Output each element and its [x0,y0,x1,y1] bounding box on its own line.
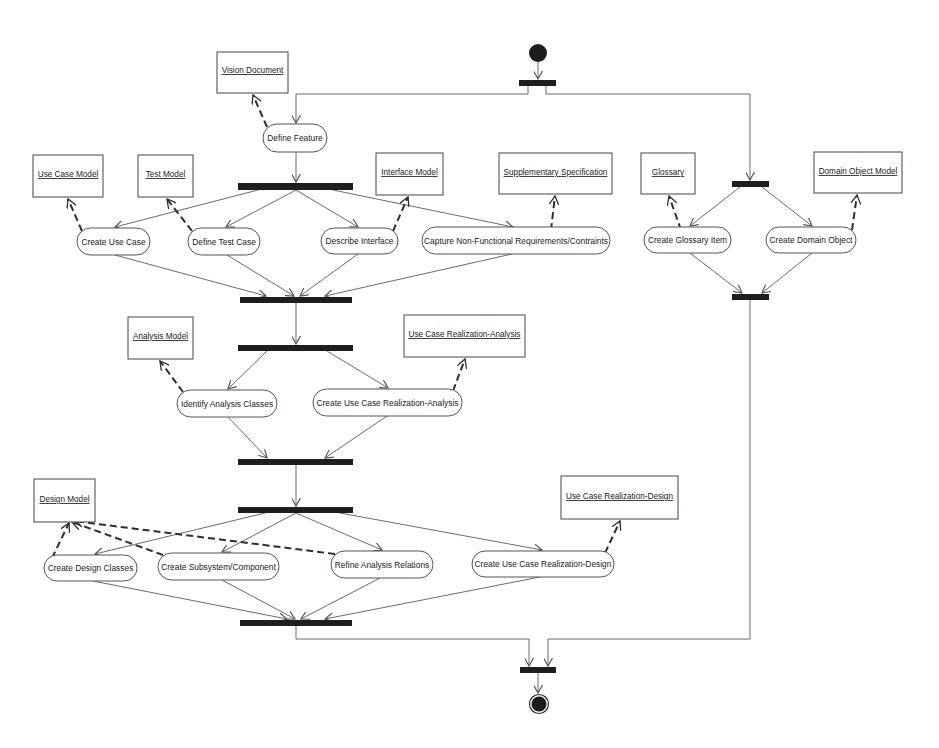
artifact-label: Glossary [652,168,685,177]
activity-create-ucr-design: Create Use Case Realization-Design [472,551,614,577]
dep-ucr-design-activity-to-artifact [605,521,620,553]
flow-fork2-to-identify-analysis [228,351,267,389]
flow-refine-relations-to-join3 [301,578,380,619]
artifact-label: Interface Model [381,168,438,177]
artifact-label: Domain Object Model [819,167,898,176]
activity-identify-analysis-classes: Identify Analysis Classes [177,390,277,417]
flow-identify-analysis-to-join2 [228,417,267,458]
activity-define-feature: Define Feature [263,124,327,152]
flow-fork1-to-capture-nfr [333,190,513,227]
activity-create-domain-object: Create Domain Object [766,227,856,253]
dep-identify-analysis-analysis-model [160,361,183,392]
dep-create-use-case-use-case-model [68,199,82,231]
flow-ucr-analysis-to-join2 [325,416,387,458]
activity-label: Create Design Classes [48,563,134,573]
flow-create-use-case-to-join1 [115,255,266,296]
flow-join3-to-final-join [296,626,529,666]
artifact-label: Vision Document [222,66,284,75]
fork-bar-right [732,181,769,187]
flow-describe-interface-to-join1 [300,254,358,296]
activity-label: Define Test Case [192,237,256,247]
flow-capture-nfr-to-join1 [325,254,512,296]
artifact-use-case-model: Use Case Model [33,155,103,197]
artifact-use-case-realization-analysis: Use Case Realization-Analysis [404,315,525,357]
activity-label: Create Subsystem/Component [161,562,276,572]
flow-fork2-to-ucr-analysis [327,351,388,388]
flow-glossary-item-to-right-join [690,253,742,293]
artifact-label: Test Model [146,170,186,179]
artifact-glossary: Glossary [641,153,695,194]
activity-refine-analysis-relations: Refine Analysis Relations [331,551,433,578]
activity-label: Create Use Case Realization-Design [475,559,612,569]
dep-domain-object-domain-object-model [852,195,857,230]
activity-label: Create Glossary Item [648,235,727,245]
flow-right-fork-to-glossary-item [690,187,740,226]
activity-label: Define Feature [267,133,323,143]
artifact-domain-object-model: Domain Object Model [814,152,902,193]
dep-capture-nfr-supplementary-spec [551,196,555,230]
activity-label: Create Use Case Realization-Analysis [317,398,459,408]
activity-create-use-case: Create Use Case [77,228,150,255]
join-bar-1 [240,297,352,303]
dep-design-classes-design-model [52,523,69,558]
dep-define-feature-vision-document [253,95,267,127]
activity-label: Describe Interface [326,236,394,246]
flow-fork-to-define-feature [296,86,528,123]
fork-bar-3 [238,507,353,513]
activity-create-ucr-analysis: Create Use Case Realization-Analysis [313,389,462,416]
dep-ucr-analysis-activity-to-artifact [453,359,465,391]
dep-refine-relations-design-model [74,521,335,554]
artifact-interface-model: Interface Model [376,153,443,195]
artifact-label: Analysis Model [133,332,188,341]
fork-bar-start [519,80,556,86]
flow-fork1-to-describe-interface [296,190,358,227]
artifact-design-model: Design Model [34,479,95,522]
activity-label: Create Use Case [81,237,146,247]
artifact-label: Supplementary Specification [504,168,608,177]
join-bar-right [732,294,769,300]
join-bar-3 [240,620,352,626]
join-bar-final [520,667,556,673]
activity-create-design-classes: Create Design Classes [44,555,137,581]
fork-bar-2 [238,345,353,351]
dep-describe-interface-interface-model [393,197,408,231]
flow-define-test-case-to-join1 [227,255,294,296]
dep-define-test-case-test-model [167,199,192,231]
activity-capture-nfr: Capture Non-Functional Requirements/Cont… [422,227,610,254]
flow-domain-object-to-right-join [762,253,812,293]
artifact-label: Design Model [39,495,89,504]
artifact-use-case-realization-design: Use Case Realization-Design [561,476,678,519]
activity-define-test-case: Define Test Case [188,228,260,255]
activity-label: Create Domain Object [770,235,854,245]
artifact-label: Use Case Realization-Design [566,492,673,501]
activity-create-subsystem-component: Create Subsystem/Component [158,553,279,580]
activity-label: Refine Analysis Relations [335,560,430,570]
flow-fork3-to-subsystem [222,513,296,552]
dep-subsystem-design-model [72,522,163,555]
fork-bar-1 [238,183,353,190]
flow-right-fork-to-domain-object [762,187,812,226]
activity-label: Identify Analysis Classes [181,399,273,409]
artifact-label: Use Case Realization-Analysis [409,330,521,339]
flow-ucr-design-to-join3 [325,577,540,619]
initial-node-icon [529,44,547,62]
artifact-analysis-model: Analysis Model [128,317,193,359]
artifact-vision-document: Vision Document [217,52,288,93]
activity-diagram: Vision Document Use Case Model Test Mode… [0,0,939,748]
final-node-icon [530,695,549,714]
activity-create-glossary-item: Create Glossary Item [644,227,731,253]
activity-label: Capture Non-Functional Requirements/Cont… [424,236,608,246]
control-flows [93,62,812,693]
artifact-label: Use Case Model [38,170,99,179]
join-bar-2 [238,459,353,465]
dep-glossary-item-glossary [669,196,681,230]
flow-design-classes-to-join3 [93,581,287,619]
artifact-test-model: Test Model [138,155,193,197]
activity-describe-interface: Describe Interface [321,228,398,254]
artifact-supplementary-specification: Supplementary Specification [499,153,612,194]
